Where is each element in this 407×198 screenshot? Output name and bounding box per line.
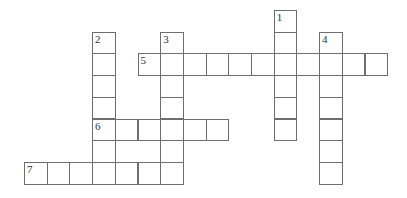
crossword-cell[interactable]: 4 bbox=[319, 32, 343, 55]
crossword-cell[interactable] bbox=[319, 119, 343, 142]
crossword-cell[interactable] bbox=[69, 162, 93, 185]
crossword-cell[interactable] bbox=[160, 97, 184, 120]
crossword-cell[interactable] bbox=[228, 53, 252, 76]
crossword-cell[interactable] bbox=[160, 119, 184, 142]
crossword-cell[interactable] bbox=[47, 162, 71, 185]
crossword-cell[interactable] bbox=[115, 119, 139, 142]
crossword-cell[interactable]: 2 bbox=[92, 32, 116, 55]
crossword-cell[interactable]: 3 bbox=[160, 32, 184, 55]
crossword-cell[interactable] bbox=[160, 75, 184, 98]
crossword-cell[interactable] bbox=[92, 97, 116, 120]
crossword-cell[interactable]: 7 bbox=[24, 162, 48, 185]
clue-number: 1 bbox=[277, 11, 283, 24]
crossword-cell[interactable]: 6 bbox=[92, 119, 116, 142]
crossword-cell[interactable] bbox=[274, 97, 298, 120]
crossword-cell[interactable] bbox=[92, 140, 116, 163]
crossword-cell[interactable] bbox=[319, 53, 343, 76]
crossword-cell[interactable] bbox=[274, 53, 298, 76]
crossword-cell[interactable] bbox=[365, 53, 389, 76]
crossword-cell[interactable] bbox=[342, 53, 366, 76]
crossword-cell[interactable] bbox=[274, 75, 298, 98]
crossword-cell[interactable] bbox=[92, 162, 116, 185]
crossword-cell[interactable] bbox=[138, 119, 162, 142]
crossword-cell[interactable] bbox=[183, 53, 207, 76]
clue-number: 3 bbox=[163, 33, 169, 46]
crossword-grid: 1263457 bbox=[0, 0, 407, 198]
crossword-cell[interactable] bbox=[206, 119, 230, 142]
crossword-cell[interactable]: 1 bbox=[274, 10, 298, 33]
crossword-cell[interactable] bbox=[296, 53, 320, 76]
crossword-cell[interactable] bbox=[274, 32, 298, 55]
crossword-cell[interactable] bbox=[92, 75, 116, 98]
crossword-cell[interactable] bbox=[92, 53, 116, 76]
clue-number: 5 bbox=[141, 54, 147, 67]
crossword-cell[interactable] bbox=[206, 53, 230, 76]
crossword-cell[interactable] bbox=[160, 53, 184, 76]
clue-number: 7 bbox=[27, 163, 33, 176]
clue-number: 6 bbox=[95, 120, 101, 133]
crossword-cell[interactable] bbox=[160, 140, 184, 163]
crossword-cell[interactable] bbox=[115, 162, 139, 185]
crossword-cell[interactable] bbox=[319, 75, 343, 98]
crossword-cell[interactable] bbox=[251, 53, 275, 76]
crossword-cell[interactable] bbox=[319, 140, 343, 163]
crossword-cell[interactable] bbox=[319, 162, 343, 185]
crossword-cell[interactable] bbox=[183, 119, 207, 142]
crossword-cell[interactable] bbox=[319, 97, 343, 120]
crossword-cell[interactable]: 5 bbox=[138, 53, 162, 76]
clue-number: 2 bbox=[95, 33, 101, 46]
crossword-cell[interactable] bbox=[160, 162, 184, 185]
clue-number: 4 bbox=[322, 33, 328, 46]
crossword-cell[interactable] bbox=[138, 162, 162, 185]
crossword-cell[interactable] bbox=[274, 119, 298, 142]
